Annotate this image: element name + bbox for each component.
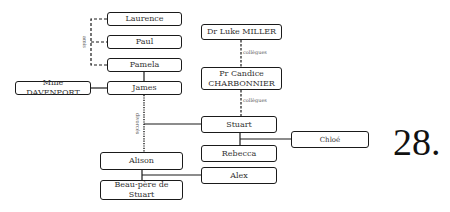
node-james: James [107, 81, 182, 95]
node-label: Stuart [226, 120, 252, 130]
edge-label-collegues-1: collègues [243, 49, 267, 55]
node-mme-davenport: Mme DAVENPORT [15, 81, 91, 95]
node-beau-pere-de-stuart: Beau-père de Stuart [100, 180, 183, 200]
node-label: Mme DAVENPORT [16, 78, 90, 98]
edge-label-collegues-2: collègues [243, 97, 267, 103]
node-label: Rebecca [222, 149, 256, 159]
node-laurence: Laurence [107, 12, 182, 26]
node-pamela: Pamela [107, 58, 182, 72]
edge-label-amis: amis [82, 36, 88, 48]
node-alison: Alison [100, 152, 183, 170]
node-alex: Alex [201, 167, 277, 184]
node-label: Paul [136, 37, 154, 47]
node-label: James [132, 83, 156, 93]
node-dr-luke-miller: Dr Luke MILLER [201, 24, 282, 40]
node-label: Dr Luke MILLER [207, 27, 276, 37]
edge-label-divorces: divorcés [135, 113, 141, 134]
node-label: Pr Candice CHARBONNIER [208, 69, 275, 89]
node-label: Chloé [320, 135, 340, 145]
node-label: Alison [129, 156, 154, 166]
page-number: 28. [393, 120, 441, 164]
node-label: Pamela [130, 60, 159, 70]
node-chloe: Chloé [291, 131, 369, 148]
node-label: Laurence [125, 14, 163, 24]
node-paul: Paul [107, 35, 182, 49]
node-label: Alex [230, 171, 248, 181]
node-rebecca: Rebecca [201, 145, 277, 162]
node-pr-candice-charbonnier: Pr Candice CHARBONNIER [201, 67, 282, 90]
node-stuart: Stuart [201, 116, 277, 133]
node-label: Beau-père de Stuart [101, 180, 182, 200]
